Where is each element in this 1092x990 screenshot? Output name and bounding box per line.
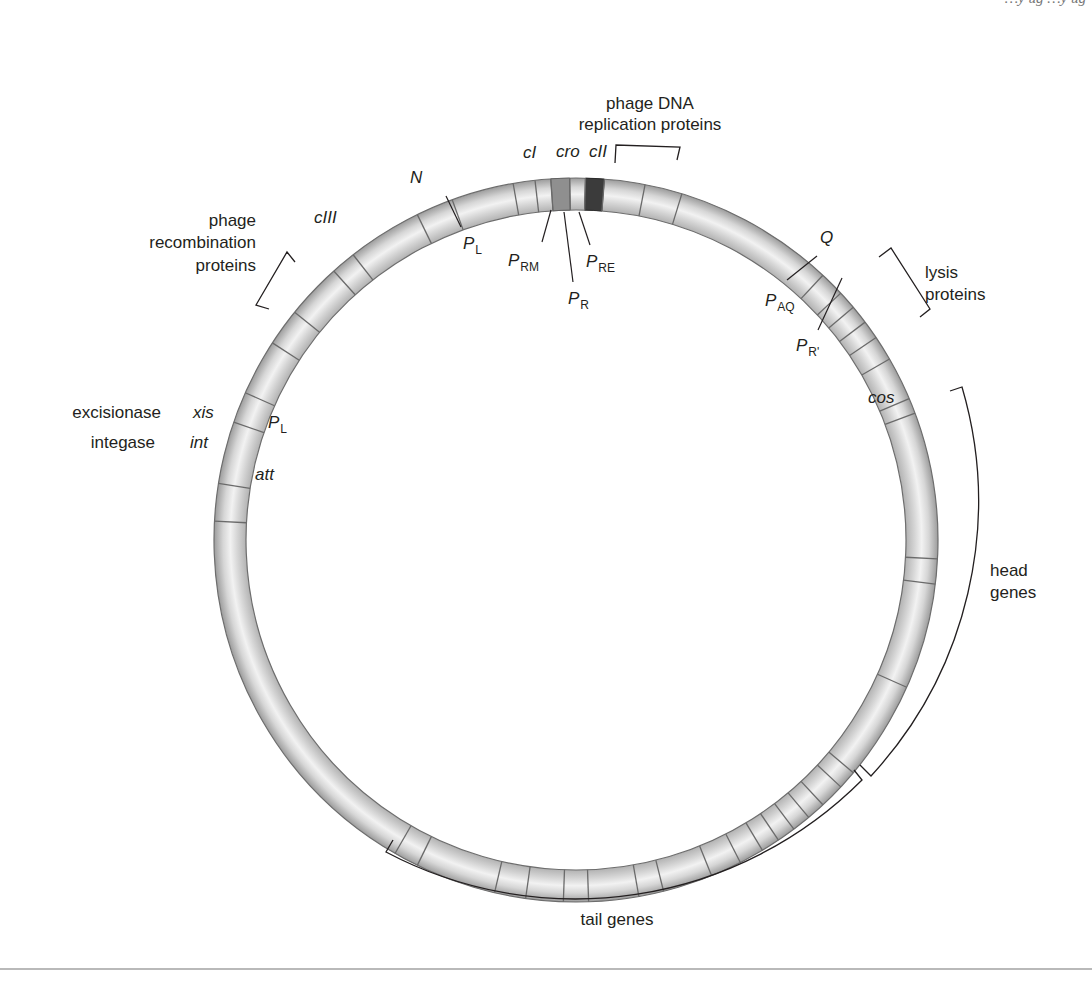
gene-label-cII: cII bbox=[589, 142, 607, 161]
region-label-head-2: genes bbox=[990, 583, 1036, 602]
region-label-replication-1: phage DNA bbox=[606, 94, 695, 113]
promoter-PL-top: PL bbox=[463, 234, 482, 257]
region-label-recombination-1: phage bbox=[209, 211, 256, 230]
gene-label-cos: cos bbox=[868, 388, 895, 407]
region-label-head-1: head bbox=[990, 561, 1028, 580]
gene-boundary-tick bbox=[585, 178, 586, 210]
label-excisionase: excisionase bbox=[72, 403, 161, 422]
promoter-PRE: PRE bbox=[586, 252, 615, 275]
region-label-replication-2: replication proteins bbox=[579, 115, 722, 134]
cro-gene-block bbox=[551, 178, 570, 211]
promoter-PL-left: PL bbox=[268, 413, 287, 436]
region-label-recombination-2: recombination bbox=[149, 233, 256, 252]
region-label-lysis-2: proteins bbox=[925, 285, 985, 304]
gene-label-cI: cI bbox=[523, 143, 537, 162]
promoter-PR: PR bbox=[568, 289, 589, 312]
gene-boundary-tick bbox=[570, 178, 571, 210]
gene-label-xis: xis bbox=[192, 403, 214, 422]
gene-label-cro: cro bbox=[556, 142, 580, 161]
label-integase: integase bbox=[91, 433, 155, 452]
promoter-PRM: PRM bbox=[508, 251, 539, 274]
lysis-bracket bbox=[879, 248, 930, 317]
lambda-genome-diagram: cI cro cII N cIII Q xis int att cos PL P… bbox=[0, 0, 1092, 990]
region-label-lysis-1: lysis bbox=[925, 263, 958, 282]
gene-label-cIII: cIII bbox=[314, 208, 337, 227]
gene-label-N: N bbox=[410, 168, 423, 187]
promoter-PRprime: PR' bbox=[796, 336, 819, 359]
dna-ring bbox=[214, 178, 938, 902]
region-label-recombination-3: proteins bbox=[196, 256, 256, 275]
cII-gene-block bbox=[585, 178, 605, 211]
gene-label-Q: Q bbox=[820, 228, 833, 247]
recombination-bracket bbox=[256, 252, 295, 309]
promoter-PAQ: PAQ bbox=[765, 291, 795, 314]
gene-label-int: int bbox=[190, 433, 209, 452]
region-label-tail: tail genes bbox=[581, 910, 654, 929]
footer-rule bbox=[0, 968, 1092, 970]
replication-bracket bbox=[615, 145, 680, 163]
gene-label-att: att bbox=[255, 465, 275, 484]
